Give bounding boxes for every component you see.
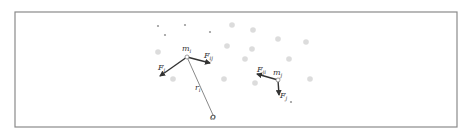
background-particle (303, 39, 309, 45)
particle-j (276, 78, 280, 82)
particle-force-diagram: ri FiFijFjiFj mi mj O (0, 0, 470, 135)
background-particle (250, 27, 256, 33)
background-particle (252, 80, 258, 86)
background-particle (249, 46, 255, 52)
small-particle (164, 34, 166, 36)
small-particle (184, 24, 186, 26)
background-particle (275, 36, 281, 42)
small-particle (209, 31, 211, 33)
background-particle (155, 49, 161, 55)
small-particle (290, 101, 292, 103)
particle-i (185, 55, 189, 59)
diagram-frame (15, 12, 457, 127)
background-particle (242, 56, 248, 62)
origin-label: O (210, 114, 216, 122)
background-particle (307, 76, 313, 82)
background-particle (286, 56, 292, 62)
background-particle (224, 43, 230, 49)
background-particle (170, 76, 176, 82)
background-particle (229, 22, 235, 28)
small-particle (157, 25, 159, 27)
background-particle (221, 76, 227, 82)
